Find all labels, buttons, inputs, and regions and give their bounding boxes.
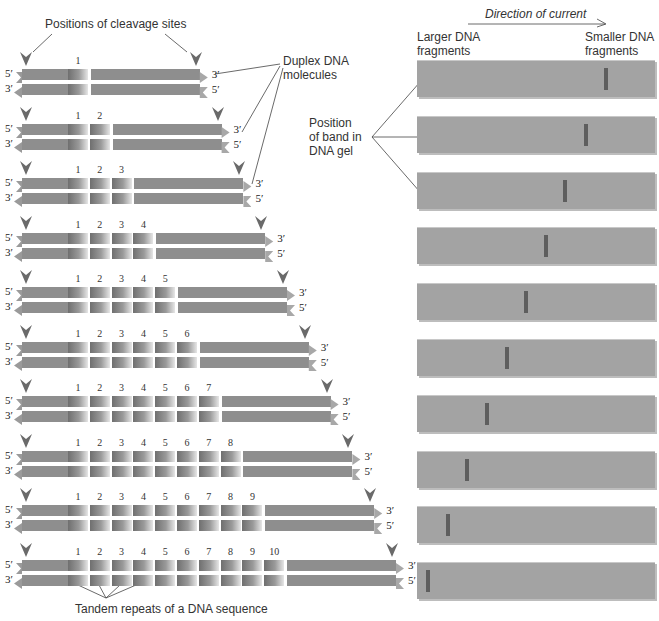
repeat-number: 4: [133, 437, 153, 448]
repeat-number: 4: [133, 382, 153, 393]
cleavage-site-arrowhead-icon: [190, 52, 202, 66]
dna-band: [465, 459, 469, 481]
strand-end-shape: [14, 357, 317, 368]
repeat-number: 5: [155, 546, 175, 557]
repeat-number: 5: [155, 382, 175, 393]
cleavage-site-arrowhead-icon: [233, 161, 245, 175]
strand-end-shape: [14, 411, 339, 422]
three-prime-label: 3′: [5, 82, 13, 94]
repeat-number: 3: [112, 437, 132, 448]
gel-lane: [417, 562, 655, 599]
five-prime-label: 5′: [321, 356, 329, 368]
five-prime-label: 5′: [5, 122, 13, 134]
dna-band: [524, 291, 528, 313]
repeat-number: 2: [90, 110, 110, 121]
strand-end-shape: [16, 233, 275, 244]
three-prime-label: 3′: [386, 504, 394, 516]
repeat-number: 3: [112, 382, 132, 393]
repeat-number: 2: [90, 382, 110, 393]
three-prime-label: 3′: [5, 518, 13, 530]
cleavage-site-arrowhead-icon: [20, 543, 32, 557]
repeat-number: 1: [68, 328, 88, 339]
gel-lane: [417, 60, 655, 97]
repeat-number: 6: [177, 382, 197, 393]
five-prime-label: 5′: [212, 83, 220, 95]
repeat-number: 2: [90, 491, 110, 502]
strand-end-shape: [16, 124, 232, 135]
five-prime-label: 5′: [5, 558, 13, 570]
strand-end-shape: [14, 139, 230, 150]
repeat-number: 6: [177, 491, 197, 502]
cleavage-site-arrowhead-icon: [20, 107, 32, 121]
dna-band: [544, 235, 548, 257]
five-prime-label: 5′: [408, 574, 416, 586]
three-prime-label: 3′: [5, 409, 13, 421]
three-prime-label: 3′: [5, 355, 13, 367]
cleavage-site-arrowhead-icon: [20, 52, 32, 66]
dna-band: [505, 347, 509, 369]
repeat-number: 9: [242, 491, 262, 502]
strand-end-shape: [16, 287, 297, 298]
five-prime-label: 5′: [5, 449, 13, 461]
strand-end-shape: [14, 302, 295, 313]
strand-end-shape: [14, 84, 208, 95]
gel-lane: [417, 339, 655, 376]
cleavage-site-arrowhead-icon: [255, 216, 267, 230]
repeat-number: 6: [177, 328, 197, 339]
cleavage-site-arrowhead-icon: [364, 488, 376, 502]
repeat-number: 1: [68, 491, 88, 502]
five-prime-label: 5′: [5, 285, 13, 297]
strand-end-shape: [16, 178, 253, 189]
three-prime-label: 3′: [364, 450, 372, 462]
gel-lane: [417, 506, 655, 543]
repeat-number: 1: [68, 437, 88, 448]
repeat-number: 6: [177, 437, 197, 448]
repeat-number: 3: [112, 164, 132, 175]
three-prime-label: 3′: [5, 137, 13, 149]
five-prime-label: 5′: [343, 410, 351, 422]
three-prime-label: 3′: [212, 68, 220, 80]
five-prime-label: 5′: [5, 67, 13, 79]
three-prime-label: 3′: [255, 177, 263, 189]
repeat-number: 7: [199, 437, 219, 448]
three-prime-label: 3′: [5, 573, 13, 585]
strand-end-shape: [16, 342, 319, 353]
cleavage-site-arrowhead-icon: [20, 488, 32, 502]
repeat-number: 7: [199, 491, 219, 502]
three-prime-label: 3′: [5, 191, 13, 203]
repeat-number: 5: [155, 273, 175, 284]
repeat-number: 10: [264, 546, 284, 557]
strand-end-shape: [16, 451, 362, 462]
five-prime-label: 5′: [255, 192, 263, 204]
three-prime-label: 3′: [343, 395, 351, 407]
gel-lane: [417, 116, 655, 153]
strand-end-shape: [16, 505, 384, 516]
five-prime-label: 5′: [277, 247, 285, 259]
three-prime-label: 3′: [5, 300, 13, 312]
repeat-number: 4: [133, 491, 153, 502]
repeat-number: 3: [112, 328, 132, 339]
cleavage-site-arrowhead-icon: [20, 216, 32, 230]
repeat-number: 2: [90, 273, 110, 284]
repeat-number: 5: [155, 491, 175, 502]
cleavage-site-arrowhead-icon: [386, 543, 398, 557]
five-prime-label: 5′: [5, 340, 13, 352]
dna-band: [584, 124, 588, 146]
three-prime-label: 3′: [321, 341, 329, 353]
repeat-number: 1: [68, 546, 88, 557]
repeat-number: 1: [68, 110, 88, 121]
strand-end-shape: [14, 575, 404, 586]
repeat-number: 6: [177, 546, 197, 557]
three-prime-label: 3′: [299, 286, 307, 298]
repeat-number: 2: [90, 437, 110, 448]
five-prime-label: 5′: [5, 394, 13, 406]
cleavage-site-arrowhead-icon: [20, 434, 32, 448]
dna-band: [604, 68, 608, 90]
cleavage-site-arrowhead-icon: [212, 107, 224, 121]
five-prime-label: 5′: [299, 301, 307, 313]
repeat-number: 2: [90, 328, 110, 339]
dna-band: [485, 403, 489, 425]
repeat-number: 3: [112, 491, 132, 502]
gel-lane: [417, 395, 655, 432]
repeat-number: 7: [199, 546, 219, 557]
